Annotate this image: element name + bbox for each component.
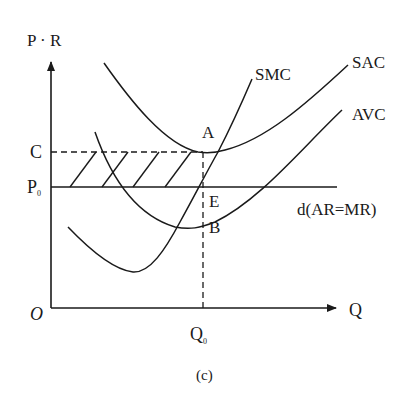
cost-curves-diagram: P · R Q O C P0 Q0 SMC SAC AVC d(AR=MR) A… bbox=[0, 0, 416, 395]
c-level-label: C bbox=[30, 142, 42, 162]
demand-label: d(AR=MR) bbox=[297, 200, 376, 219]
x-axis-label: Q bbox=[349, 300, 362, 320]
figure-caption: (c) bbox=[196, 367, 213, 384]
smc-curve bbox=[68, 79, 252, 272]
q0-label: Q0 bbox=[190, 324, 207, 346]
loss-area-hatch bbox=[70, 152, 191, 187]
smc-label: SMC bbox=[255, 65, 291, 84]
y-axis-label: P · R bbox=[27, 31, 62, 50]
origin-label: O bbox=[30, 304, 43, 324]
sac-curve bbox=[104, 63, 348, 153]
point-b-label: B bbox=[209, 218, 220, 237]
point-a-label: A bbox=[202, 123, 215, 142]
sac-label: SAC bbox=[352, 53, 385, 72]
point-e-label: E bbox=[209, 192, 219, 211]
avc-label: AVC bbox=[352, 105, 386, 124]
p0-level-label: P0 bbox=[27, 177, 41, 198]
